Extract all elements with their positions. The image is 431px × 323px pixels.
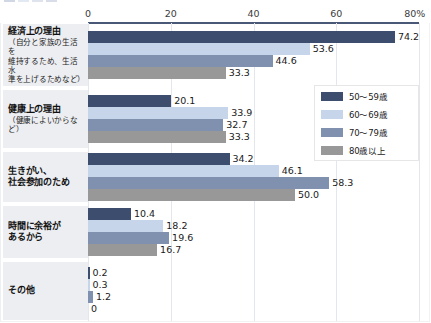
category-label: 経済上の理由（自分と家族の生活を維持するため、生活水準を上げるためなど） — [3, 24, 88, 86]
bar-value-label: 74.2 — [398, 32, 419, 42]
bar-row: 19.6 — [88, 232, 431, 244]
legend-label: 70～79歳 — [349, 126, 387, 138]
bar-row: 18.2 — [88, 220, 431, 232]
legend-item[interactable]: 60～69歳 — [321, 108, 414, 120]
bar-value-label: 10.4 — [134, 209, 155, 219]
legend-swatch — [321, 128, 343, 137]
bar — [88, 220, 163, 232]
category-label-main: 経済上の理由 — [8, 26, 84, 37]
bar-series-stack: 10.418.219.616.7 — [88, 206, 431, 258]
bar-value-label: 0.3 — [93, 280, 108, 290]
bar-row: 58.3 — [88, 177, 431, 189]
bar — [88, 232, 169, 244]
x-tick-label: 0 — [85, 8, 91, 19]
bar-value-label: 33.3 — [229, 68, 250, 78]
bar-row: 74.2 — [88, 31, 431, 43]
bar-value-label: 44.6 — [276, 56, 297, 66]
bar-value-label: 16.7 — [160, 245, 181, 255]
bar-row: 46.1 — [88, 165, 431, 177]
bar-value-label: 33.9 — [231, 108, 252, 118]
bar — [88, 153, 230, 165]
legend-swatch — [321, 92, 343, 101]
bar-row: 0 — [88, 303, 431, 315]
category-label-sub: 維持するため、生活水 — [8, 57, 84, 76]
category-label: 生きがい、社会参加のため — [3, 152, 88, 202]
bar-row: 0.3 — [88, 279, 431, 291]
bar-value-label: 0 — [91, 304, 97, 314]
bar-row: 33.3 — [88, 67, 431, 79]
legend-item[interactable]: 80歳以上 — [321, 144, 414, 156]
legend-label: 60～69歳 — [349, 108, 387, 120]
bar-row: 10.4 — [88, 208, 431, 220]
bar-value-label: 20.1 — [174, 96, 195, 106]
bar-series-stack: 0.20.31.20 — [88, 262, 431, 320]
bar-group: 経済上の理由（自分と家族の生活を維持するため、生活水準を上げるためなど）74.2… — [0, 24, 431, 86]
bar — [88, 131, 226, 143]
bar-group: 時間に余裕があるから10.418.219.616.7 — [0, 206, 431, 258]
category-label-sub: （健康によいからなど） — [8, 116, 84, 135]
bar-row: 53.6 — [88, 43, 431, 55]
legend-swatch — [321, 146, 343, 155]
bar-row: 16.7 — [88, 244, 431, 256]
category-label-sub: 準を上げるためなど） — [8, 75, 84, 84]
legend-item[interactable]: 70～79歳 — [321, 126, 414, 138]
bar-value-label: 33.3 — [229, 132, 250, 142]
category-label: 健康上の理由（健康によいからなど） — [3, 90, 88, 148]
legend-label: 80歳以上 — [349, 144, 386, 156]
legend-swatch — [321, 110, 343, 119]
bar — [88, 291, 93, 303]
legend-item[interactable]: 50～59歳 — [321, 90, 414, 102]
category-label: その他 — [3, 262, 88, 320]
bar — [88, 119, 223, 131]
bar-value-label: 0.2 — [93, 268, 108, 278]
bar-row: 1.2 — [88, 291, 431, 303]
x-axis-tick-labels: 020406080% — [0, 8, 431, 22]
category-label: 時間に余裕があるから — [3, 206, 88, 258]
category-label-main: 社会参加のため — [8, 177, 84, 188]
bar — [88, 165, 279, 177]
x-tick-label: 60 — [330, 8, 342, 19]
category-label-sub: （自分と家族の生活を — [8, 38, 84, 57]
bar-row: 50.0 — [88, 189, 431, 201]
bar — [88, 107, 228, 119]
bar-value-label: 18.2 — [166, 221, 187, 231]
bar-chart: 020406080% 経済上の理由（自分と家族の生活を維持するため、生活水準を上… — [0, 0, 431, 323]
bar-value-label: 1.2 — [96, 292, 111, 302]
x-tick-label: 40 — [247, 8, 259, 19]
bar-value-label: 34.2 — [233, 154, 254, 164]
bar — [88, 189, 295, 201]
bar-row: 44.6 — [88, 55, 431, 67]
bar-value-label: 58.3 — [332, 178, 353, 188]
bar — [88, 279, 90, 291]
bar-value-label: 32.7 — [226, 120, 247, 130]
chart-legend: 50～59歳60～69歳70～79歳80歳以上 — [314, 85, 419, 161]
bar-group: その他0.20.31.20 — [0, 262, 431, 320]
bar-row: 0.2 — [88, 267, 431, 279]
bar — [88, 67, 226, 79]
x-tick-label: 80% — [404, 8, 425, 19]
bar — [88, 31, 395, 43]
bar — [88, 177, 329, 189]
bar — [88, 267, 90, 279]
bar — [88, 244, 157, 256]
bar-value-label: 53.6 — [313, 44, 334, 54]
category-label-main: 健康上の理由 — [8, 104, 84, 115]
category-label-main: 時間に余裕が — [8, 221, 84, 232]
category-label-main: あるから — [8, 232, 84, 243]
bar — [88, 95, 171, 107]
category-label-main: 生きがい、 — [8, 166, 84, 177]
bar — [88, 43, 310, 55]
x-tick-label: 20 — [165, 8, 177, 19]
legend-label: 50～59歳 — [349, 90, 387, 102]
bar — [88, 55, 273, 67]
bar-value-label: 19.6 — [172, 233, 193, 243]
bar-value-label: 50.0 — [298, 190, 319, 200]
bar-value-label: 46.1 — [282, 166, 303, 176]
bar-series-stack: 74.253.644.633.3 — [88, 24, 431, 86]
category-label-main: その他 — [8, 285, 84, 296]
bar — [88, 208, 131, 220]
